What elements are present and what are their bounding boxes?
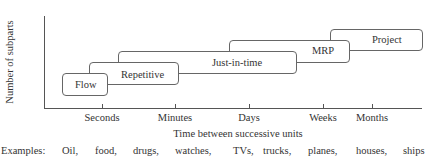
- x-tick-label: Days: [238, 112, 260, 123]
- example-item: houses,: [356, 145, 387, 156]
- x-axis: [44, 108, 422, 109]
- y-axis-label: Number of subparts: [4, 20, 15, 103]
- x-tick-label: Months: [356, 112, 388, 123]
- box-label: Project: [372, 34, 402, 45]
- box-label: Just-in-time: [212, 57, 262, 68]
- x-tick-label: Minutes: [158, 112, 192, 123]
- box-label: MRP: [312, 45, 334, 56]
- x-tick: [175, 104, 176, 108]
- x-tick: [102, 104, 103, 108]
- example-item: planes,: [308, 145, 337, 156]
- box-label: Repetitive: [121, 69, 164, 80]
- example-item: ships: [403, 145, 425, 156]
- examples-label: Examples:: [1, 145, 45, 156]
- x-tick: [249, 104, 250, 108]
- x-tick-label: Seconds: [85, 112, 120, 123]
- x-axis-label: Time between successive units: [173, 128, 302, 139]
- x-tick-label: Weeks: [309, 112, 337, 123]
- box-flow: Flow: [62, 73, 108, 96]
- example-item: Oil,: [62, 145, 78, 156]
- example-item: food,: [95, 145, 117, 156]
- example-item: trucks,: [263, 145, 291, 156]
- y-axis: [44, 16, 45, 109]
- example-item: drugs,: [133, 145, 159, 156]
- x-tick: [323, 104, 324, 108]
- example-item: TVs,: [233, 145, 254, 156]
- box-label: Flow: [75, 79, 97, 90]
- example-item: watches,: [175, 145, 211, 156]
- x-tick: [372, 104, 373, 108]
